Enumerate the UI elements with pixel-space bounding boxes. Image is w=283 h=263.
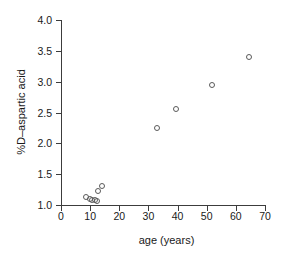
y-axis-tick <box>56 174 61 175</box>
data-point <box>209 82 215 88</box>
y-axis-tick-label-text: 4.0 <box>22 15 52 26</box>
data-point <box>154 125 160 131</box>
data-point <box>92 197 98 203</box>
data-point <box>95 188 101 194</box>
x-axis-tick-label: 60 <box>224 211 248 222</box>
data-point <box>87 196 93 202</box>
y-axis-title: %D–aspartic acid <box>15 47 27 177</box>
scatter-chart-figure: 1.01.52.02.53.03.54.0 010203040506070 ag… <box>0 0 283 263</box>
plot-data-area <box>0 0 283 263</box>
x-axis-title: age (years) <box>0 234 283 246</box>
y-axis-tick <box>56 82 61 83</box>
x-axis-tick-label: 0 <box>49 211 73 222</box>
y-axis-tick-label: 1.0 <box>18 200 52 211</box>
data-point <box>83 194 89 200</box>
y-axis-tick <box>56 20 61 21</box>
data-point <box>173 106 179 112</box>
x-axis-tick-label: 10 <box>78 211 102 222</box>
data-point <box>94 198 100 204</box>
x-axis-tick-label: 30 <box>136 211 160 222</box>
data-point <box>89 197 95 203</box>
x-axis-tick-label: 70 <box>253 211 277 222</box>
x-axis-tick-label: 20 <box>107 211 131 222</box>
x-axis-tick-label: 50 <box>195 211 219 222</box>
data-point <box>246 54 252 60</box>
y-axis-tick-label-text: 1.0 <box>22 200 52 211</box>
y-axis-tick <box>56 113 61 114</box>
y-axis-tick-label: 4.0 <box>18 15 52 26</box>
y-axis-tick <box>56 51 61 52</box>
y-axis-tick <box>56 143 61 144</box>
data-point <box>99 183 105 189</box>
y-axis-line <box>61 20 62 206</box>
x-axis-tick-label: 40 <box>166 211 190 222</box>
